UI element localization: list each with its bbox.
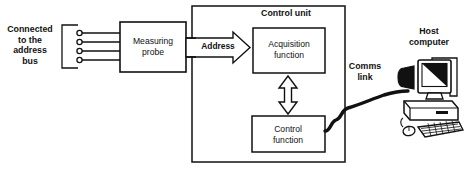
diagram-graphics [0, 0, 464, 183]
measuring-probe-label: Measuring probe [120, 36, 186, 57]
acquisition-control-double-arrow [279, 76, 297, 114]
comms-link-cable [325, 91, 408, 131]
comms-link-label: Comms link [344, 61, 386, 82]
connector-pins [77, 30, 120, 62]
host-computer-illustration [398, 58, 463, 137]
control-function-label: Control function [253, 124, 323, 145]
control-unit-label: Control unit [238, 8, 334, 19]
acquisition-function-label: Acquisition function [254, 39, 324, 60]
address-bus-label: Connected to the address bus [2, 24, 58, 66]
address-bus-connector [62, 25, 78, 68]
address-arrow-label: Address [196, 41, 240, 52]
diagram-canvas: Connected to the address bus Measuring p… [0, 0, 464, 183]
host-computer-label: Host computer [396, 26, 462, 47]
